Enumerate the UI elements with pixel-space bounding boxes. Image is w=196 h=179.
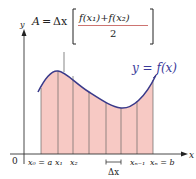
tick-label-x0-a: x₀ = a: [28, 158, 53, 167]
formula-denominator: 2: [110, 28, 116, 39]
origin-label: 0: [12, 156, 18, 166]
tick-label-xn-1: xₙ₋₁: [130, 158, 145, 167]
delta-x-label: Δx: [108, 167, 119, 177]
formula-numerator: f(x₁)+f(x₂): [78, 12, 130, 23]
delta-x-bracket: [106, 160, 121, 165]
x-axis-label: x: [189, 150, 194, 160]
formula-delta-x: Δx: [53, 15, 68, 28]
tick-label-xn-b: xₙ = b: [150, 158, 175, 167]
curve-label: y = f(x): [131, 61, 177, 75]
tick-label-x2: x₂: [70, 158, 78, 167]
formula-equals: =: [42, 15, 51, 28]
left-bracket: [73, 9, 76, 44]
trapezoid-rule-diagram: y x 0 x₀ = a x₁ x₂ xₙ₋₁ xₙ = b Δx A = Δx…: [0, 0, 196, 179]
x-axis-arrow-icon: [181, 152, 188, 157]
right-bracket: [150, 9, 153, 44]
y-axis-arrow-icon: [22, 29, 27, 36]
tick-label-x1: x₁: [55, 158, 63, 167]
y-axis-label: y: [19, 20, 25, 29]
formula-lhs: A: [31, 15, 40, 28]
